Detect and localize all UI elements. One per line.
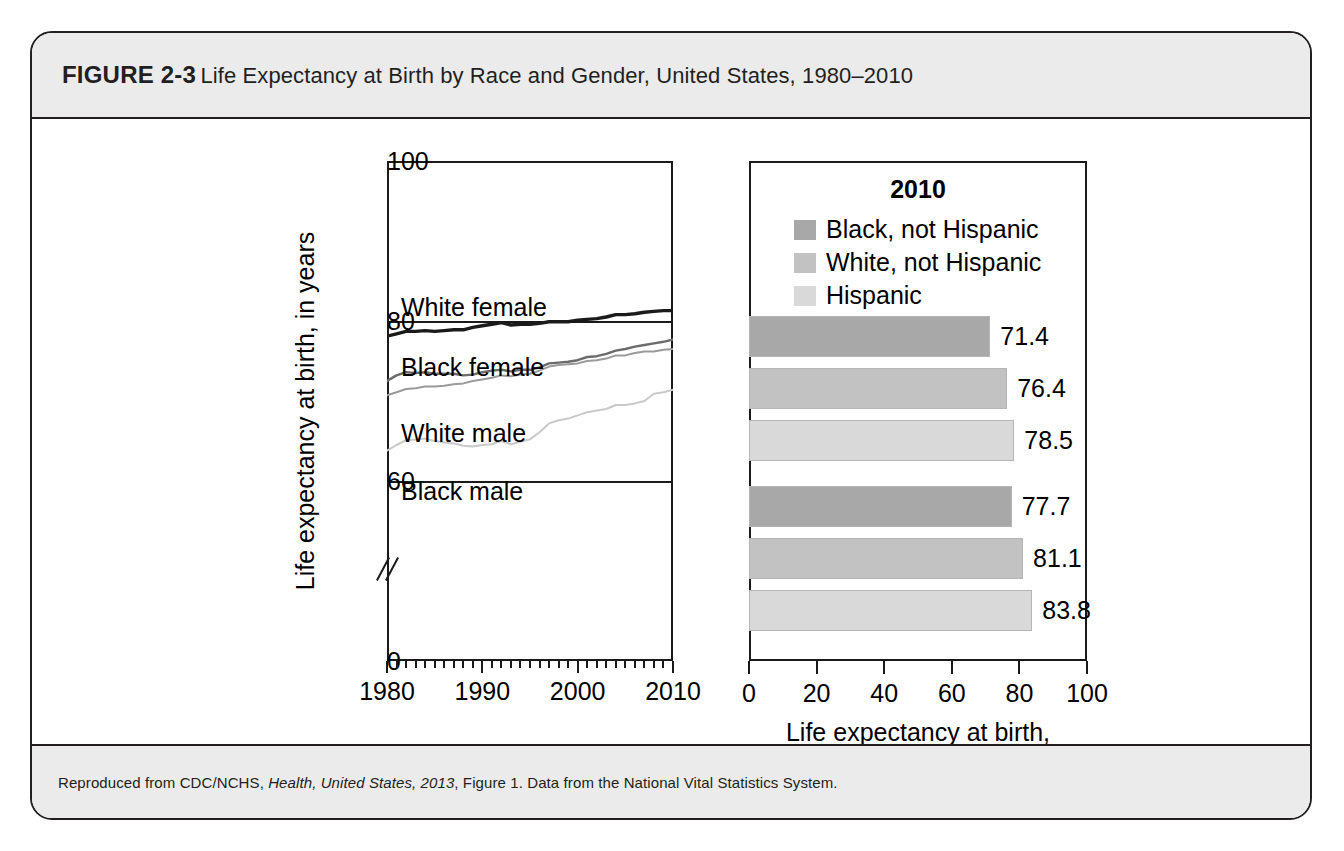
x-tick-1992 [500, 661, 502, 668]
x-tick-1997 [548, 661, 550, 668]
x-tick-2007 [643, 661, 645, 668]
bar-chart-bars: 71.476.478.577.781.183.8 [719, 161, 1119, 661]
bar-chart-x-tick-labels: 0 20 40 60 80 100 [749, 679, 1087, 713]
bar-chart-x-axis-title-line1: Life expectancy at birth, [749, 717, 1087, 747]
bar-x-tick-80 [1018, 661, 1020, 674]
bar-chart-xtick-100: 100 [1066, 679, 1108, 708]
bar-female-white-not-hispanic [749, 538, 1023, 579]
x-tick-2008 [653, 661, 655, 668]
x-tick-1995 [529, 661, 531, 668]
x-tick-2001 [586, 661, 588, 668]
bar-chart-xtick-20: 20 [803, 679, 831, 708]
x-tick-1985 [434, 661, 436, 668]
x-tick-2006 [634, 661, 636, 668]
x-tick-2002 [596, 661, 598, 668]
x-tick-1999 [567, 661, 569, 668]
bar-male-black-not-hispanic [749, 316, 990, 357]
x-tick-1988 [462, 661, 464, 668]
bar-chart-xtick-80: 80 [1005, 679, 1033, 708]
source-publication: Health, United States, 2013 [268, 774, 454, 791]
x-tick-1994 [519, 661, 521, 668]
x-tick-1983 [415, 661, 417, 668]
source-prefix: Reproduced from CDC/NCHS, [58, 774, 268, 791]
x-tick-1987 [453, 661, 455, 668]
bar-x-tick-100 [1086, 661, 1088, 674]
x-tick-2003 [605, 661, 607, 668]
bar-x-tick-60 [951, 661, 953, 674]
x-tick-1981 [396, 661, 398, 668]
bar-x-tick-40 [883, 661, 885, 674]
x-tick-1986 [443, 661, 445, 668]
bar-x-tick-0 [748, 661, 750, 674]
x-tick-1982 [405, 661, 407, 668]
bar-chart-xtick-0: 0 [742, 679, 756, 708]
line-chart-y-axis-title: Life expectancy at birth, in years [291, 232, 320, 591]
bar-chart: 2010 Black, not Hispanic White, not Hisp… [719, 161, 1119, 691]
line-chart-x-ticks [387, 661, 673, 673]
bar-value-label: 81.1 [1033, 544, 1082, 573]
series-label-white-female: White female [401, 293, 547, 322]
bar-value-label: 83.8 [1042, 596, 1091, 625]
line-chart: Life expectancy at birth, in years 100 8… [357, 161, 677, 691]
bar-male-white-not-hispanic [749, 368, 1007, 409]
source-citation: Reproduced from CDC/NCHS, Health, United… [32, 774, 838, 791]
series-label-black-female: Black female [401, 353, 544, 382]
x-tick-2010 [672, 661, 674, 673]
x-tick-1993 [510, 661, 512, 668]
bar-x-tick-20 [816, 661, 818, 674]
bar-value-label: 77.7 [1022, 492, 1071, 521]
figure-title: Life Expectancy at Birth by Race and Gen… [200, 63, 913, 88]
figure-box: FIGURE 2-3 Life Expectancy at Birth by R… [30, 31, 1312, 820]
x-tick-1980 [386, 661, 388, 673]
x-tick-2005 [624, 661, 626, 668]
line-chart-xtick-2000: 2000 [550, 677, 606, 706]
figure-header: FIGURE 2-3 Life Expectancy at Birth by R… [32, 33, 1310, 119]
plot-area: Life expectancy at birth, in years 100 8… [32, 121, 1310, 746]
line-chart-xtick-1990: 1990 [455, 677, 511, 706]
x-tick-2009 [662, 661, 664, 668]
bar-value-label: 76.4 [1017, 374, 1066, 403]
figure-header-text: FIGURE 2-3 Life Expectancy at Birth by R… [32, 61, 913, 89]
bar-chart-xtick-40: 40 [870, 679, 898, 708]
x-tick-1991 [491, 661, 493, 668]
line-chart-xtick-2010: 2010 [645, 677, 701, 706]
bar-value-label: 78.5 [1024, 426, 1073, 455]
series-label-black-male: Black male [401, 477, 523, 506]
figure-number: FIGURE 2-3 [62, 61, 196, 88]
bar-female-black-not-hispanic [749, 486, 1012, 527]
source-suffix: , Figure 1. Data from the National Vital… [454, 774, 837, 791]
line-chart-series-svg [387, 161, 673, 661]
line-chart-x-tick-labels: 1980 1990 2000 2010 [387, 677, 673, 711]
x-tick-1984 [424, 661, 426, 668]
bar-chart-xtick-60: 60 [938, 679, 966, 708]
x-tick-2000 [577, 661, 579, 673]
bar-female-hispanic [749, 590, 1032, 631]
figure-footer: Reproduced from CDC/NCHS, Health, United… [32, 744, 1310, 818]
bar-male-hispanic [749, 420, 1014, 461]
line-chart-xtick-1980: 1980 [359, 677, 415, 706]
x-tick-1989 [472, 661, 474, 668]
bar-chart-x-ticks [749, 661, 1087, 674]
bar-value-label: 71.4 [1000, 322, 1049, 351]
series-label-white-male: White male [401, 419, 526, 448]
x-tick-1998 [558, 661, 560, 668]
x-tick-1990 [481, 661, 483, 673]
x-tick-1996 [539, 661, 541, 668]
x-tick-2004 [615, 661, 617, 668]
